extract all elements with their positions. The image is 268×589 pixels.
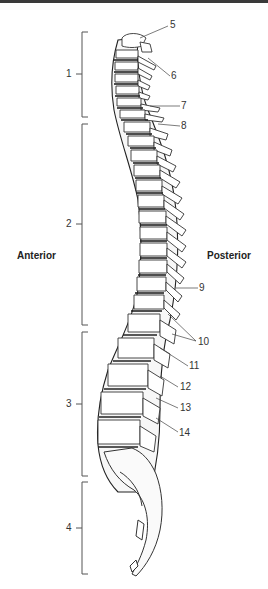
spine-diagram — [0, 0, 268, 589]
callout-label-7: 7 — [181, 101, 187, 111]
region-label-1: 1 — [66, 69, 72, 79]
callout-label-6: 6 — [171, 71, 177, 81]
region-brackets — [76, 32, 88, 574]
callout-label-14: 14 — [179, 428, 190, 438]
region-label-3: 3 — [66, 399, 72, 409]
callout-label-9: 9 — [199, 283, 205, 293]
anterior-label: Anterior — [17, 250, 56, 261]
callout-label-13: 13 — [180, 403, 191, 413]
posterior-label: Posterior — [207, 250, 251, 261]
callout-label-10: 10 — [198, 337, 209, 347]
region-label-4: 4 — [66, 523, 72, 533]
callout-label-12: 12 — [180, 382, 191, 392]
callout-label-5: 5 — [170, 20, 176, 30]
region-label-2: 2 — [66, 219, 72, 229]
callout-label-11: 11 — [189, 361, 199, 371]
callout-label-8: 8 — [181, 121, 187, 131]
